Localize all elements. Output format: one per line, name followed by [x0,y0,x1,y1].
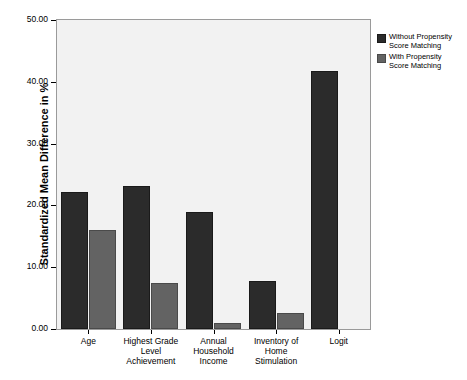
bar [277,313,304,329]
legend-swatch [377,54,386,63]
bars-layer [57,20,370,329]
y-axis-tick-label: 50.00 [27,14,48,24]
x-axis-tick-mark [88,330,89,334]
legend-item: With Propensity Score Matching [377,53,467,70]
bar [214,323,241,329]
bar-group [249,20,304,329]
legend-label: With Propensity Score Matching [389,53,442,70]
legend-item: Without Propensity Score Matching [377,33,467,50]
bar [61,192,88,329]
y-axis-tick-label: 0.00 [31,323,48,333]
y-axis-tick-label: 10.00 [27,261,48,271]
bar [151,283,178,329]
bar-group [61,20,116,329]
x-axis-tick-mark [276,330,277,334]
bar [89,230,116,329]
x-axis-tick-mark [214,330,215,334]
bar-chart: Standardized Mean Difference in % 0.0010… [0,0,467,380]
bar [186,212,213,329]
bar [311,71,338,329]
y-axis-tick-label: 30.00 [27,138,48,148]
bar-group [123,20,178,329]
x-axis-tick-mark [339,330,340,334]
legend-swatch [377,34,386,43]
legend-label: Without Propensity Score Matching [389,33,452,50]
bar [249,281,276,329]
y-axis-tick-label: 20.00 [27,199,48,209]
bar [123,186,150,329]
bar-group [186,20,241,329]
bar-group [311,20,366,329]
x-axis-tick-label: Logit [299,336,379,346]
y-axis-tick-label: 40.00 [27,76,48,86]
chart-legend: Without Propensity Score MatchingWith Pr… [377,33,467,73]
x-axis-tick-mark [151,330,152,334]
